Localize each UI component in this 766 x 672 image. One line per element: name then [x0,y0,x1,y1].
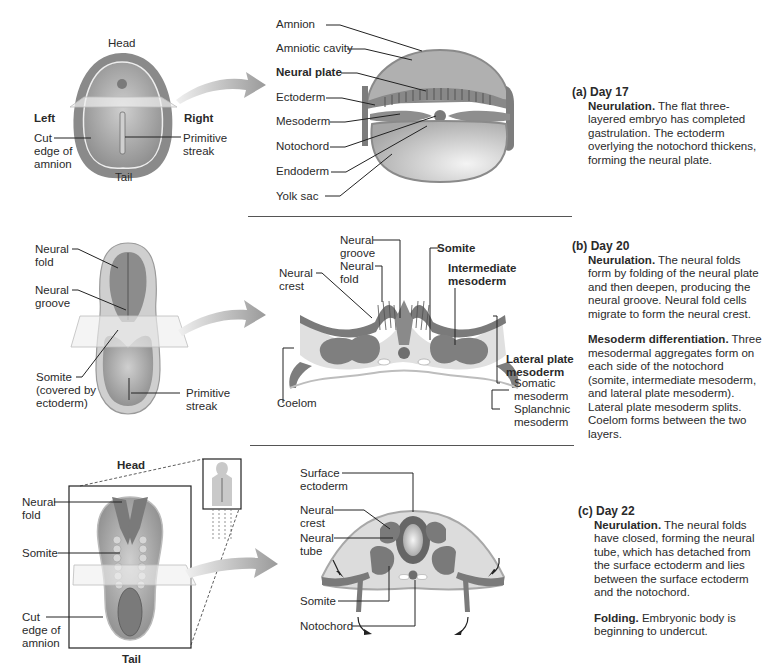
panel-c-cross-section [322,473,504,635]
label-neural-fold: Neural fold [35,243,69,269]
arrow-a-icon [176,72,266,104]
label-right: Right [184,112,213,125]
panel-b-lead-1: Neurulation. [588,254,655,266]
label-amniotic-cavity: Amniotic cavity [276,42,353,55]
panel-a-cross-section [325,25,514,196]
label-surface-ectoderm: Surface ectoderm [300,467,348,493]
label-neural-crest-c: Neural crest [300,504,334,530]
panel-c-description: (c) Day 22 Neurulation. The neural folds… [578,505,766,651]
panel-c-lead-2: Folding. [594,612,639,624]
label-neural-groove-section: Neural groove [340,234,375,260]
label-head-c: Head [117,459,145,472]
label-endoderm: Endoderm [276,165,329,178]
panel-c-lead-1: Neurulation. [594,519,661,531]
panel-c-letter: (c) [578,504,593,518]
panel-b-day: Day 20 [591,239,630,253]
label-tail: Tail [115,171,132,184]
divider-b-c [250,445,574,446]
label-left: Left [34,112,55,125]
panel-a-description: (a) Day 17 Neurulation. The flat three-l… [572,86,762,179]
label-intermediate-mesoderm: Intermediate mesoderm [448,262,516,288]
label-amnion: Amnion [276,18,315,31]
label-somatic-mesoderm: Somatic mesoderm [514,377,568,403]
label-notochord-c: Notochord [300,620,353,633]
label-somite-section: Somite [437,242,475,255]
divider-a-b [248,216,572,217]
label-neural-tube: Neural tube [300,532,334,558]
label-tail-c: Tail [122,653,141,666]
arrow-c-icon [185,548,278,578]
label-somite-c: Somite [22,547,58,560]
label-neural-fold-c: Neural fold [22,496,56,522]
label-somite-covered: Somite (covered by ectoderm) [36,371,96,410]
label-mesoderm: Mesoderm [276,115,330,128]
panel-b-letter: (b) [572,239,587,253]
panel-b-lead-2: Mesoderm differentiation. [588,333,729,345]
label-yolk-sac: Yolk sac [276,190,318,203]
label-splanchnic-mesoderm: Splanchnic mesoderm [514,403,570,429]
panel-a-embryo-dorsal-view [54,53,181,178]
label-neural-plate: Neural plate [276,66,342,79]
arrow-b-icon [178,300,266,336]
label-lateral-plate-mesoderm: Lateral plate mesoderm [506,353,574,379]
label-neural-groove: Neural groove [35,284,70,310]
panel-c-embryo-dorsal-view [46,459,241,648]
panel-b-text-2: Three mesodermal aggregates form on each… [588,333,762,440]
label-cut-edge-amnion-c: Cut edge of amnion [22,611,60,650]
label-ectoderm: Ectoderm [276,91,325,104]
label-neural-fold-section: Neural fold [340,260,374,286]
label-somite-section-c: Somite [300,595,336,608]
label-neural-crest-section: Neural crest [279,267,313,293]
panel-b-description: (b) Day 20 Neurulation. The neural folds… [572,240,766,453]
panel-a-day: Day 17 [590,85,629,99]
panel-a-letter: (a) [572,85,587,99]
label-primitive-streak: Primitive streak [183,132,227,158]
label-notochord: Notochord [276,140,329,153]
label-primitive-streak-b: Primitive streak [186,387,230,413]
label-cut-edge-amnion: Cut edge of amnion [34,132,72,171]
panel-a-lead: Neurulation. [588,100,655,112]
label-head: Head [108,37,136,50]
panel-c-day: Day 22 [596,504,635,518]
label-coelom: Coelom [277,397,317,410]
